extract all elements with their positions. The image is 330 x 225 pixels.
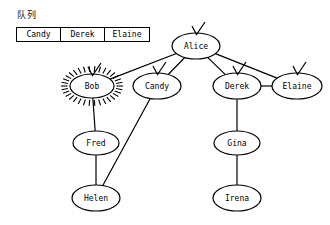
highlight-ray [66, 93, 72, 96]
highlight-ray [73, 97, 77, 102]
highlight-ray [84, 99, 86, 105]
node-label: Bob [85, 82, 100, 91]
edge-alice-derek [208, 57, 226, 74]
highlight-ray [115, 79, 121, 81]
highlight-ray [113, 93, 119, 96]
node-label: Elaine [283, 82, 312, 91]
highlight-ray [99, 99, 101, 105]
highlight-ray [78, 99, 81, 104]
node-bob[interactable]: Bob [70, 74, 114, 98]
node-label: Alice [184, 42, 208, 51]
highlight-ray [103, 68, 106, 73]
node-alice[interactable]: Alice [172, 33, 220, 59]
node-label: Derek [225, 82, 249, 91]
highlight-ray [94, 100, 95, 106]
highlight-ray [116, 82, 122, 83]
highlight-ray [69, 95, 74, 99]
highlight-ray [89, 100, 90, 106]
highlight-ray [110, 95, 115, 99]
node-label: Fred [86, 139, 105, 148]
highlight-ray [99, 67, 101, 73]
node-fred[interactable]: Fred [73, 131, 119, 155]
node-helen[interactable]: Helen [72, 185, 120, 211]
highlight-ray [63, 79, 69, 81]
node-candy[interactable]: Candy [133, 73, 181, 99]
tree-graph: AliceBobCandyDerekElaineFredGinaHelenIre… [0, 0, 330, 225]
node-label: Gina [227, 139, 246, 148]
highlight-ray [62, 82, 68, 83]
node-elaine[interactable]: Elaine [272, 73, 322, 99]
highlight-ray [115, 91, 121, 93]
highlight-ray [73, 70, 77, 75]
highlight-ray [110, 73, 115, 77]
node-derek[interactable]: Derek [213, 73, 261, 99]
highlight-ray [69, 73, 74, 77]
node-label: Candy [145, 82, 169, 91]
node-gina[interactable]: Gina [214, 131, 260, 155]
highlight-ray [107, 97, 111, 102]
node-layer: AliceBobCandyDerekElaineFredGinaHelenIre… [70, 33, 322, 211]
highlight-ray [116, 89, 122, 90]
edge-layer [93, 54, 277, 186]
node-irena[interactable]: Irena [213, 185, 261, 211]
highlight-ray [62, 89, 68, 90]
highlight-ray [66, 75, 72, 78]
node-label: Helen [84, 194, 108, 203]
node-label: Irena [225, 194, 249, 203]
highlight-ray [107, 70, 111, 75]
highlight-ray [63, 91, 69, 93]
highlight-ray [78, 68, 81, 73]
diagram-canvas: 队列 Candy Derek Elaine AliceBobCandyDerek… [0, 0, 330, 225]
edge-alice-candy [168, 57, 185, 74]
highlight-ray [84, 67, 86, 73]
highlight-ray [103, 99, 106, 104]
